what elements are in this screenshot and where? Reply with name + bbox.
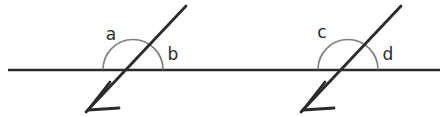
geometry-diagram: a b c d bbox=[0, 0, 447, 117]
intersection-right: c d bbox=[301, 6, 401, 112]
angle-arc-left bbox=[103, 40, 163, 70]
angle-label-c: c bbox=[317, 22, 326, 42]
arrowhead-right bbox=[303, 82, 334, 110]
angle-label-d: d bbox=[383, 44, 394, 64]
arrowhead-left bbox=[88, 82, 119, 110]
intersection-left: a b bbox=[86, 6, 186, 112]
angle-arc-right bbox=[318, 40, 378, 70]
diagram-canvas: a b c d bbox=[0, 0, 447, 117]
angle-label-a: a bbox=[106, 24, 116, 44]
angle-label-b: b bbox=[168, 44, 179, 64]
